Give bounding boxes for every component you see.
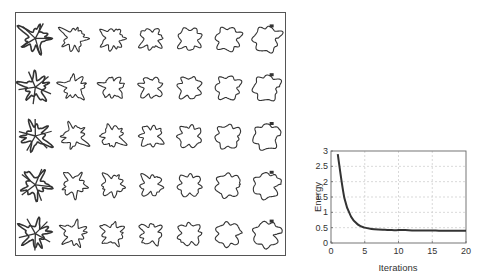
contour-shape [21,169,53,201]
x-tick-label: 15 [427,246,437,256]
contour-shape [252,73,281,101]
contour-shape [215,27,243,52]
contour-shape [57,74,87,100]
y-tick-label: 0 [323,238,328,248]
contour-shape [215,173,240,199]
contour-shape [139,224,162,246]
y-tick-label: 1.5 [315,192,328,202]
energy-chart: Energy Iterations 0510152000.511.522.53 [300,140,483,277]
contour-shape [18,217,53,250]
contour-shape [100,29,127,51]
contour-shape [100,124,127,147]
contour-shape [177,222,202,245]
contour-shape [60,121,90,149]
contour-shape [16,70,51,104]
contour-shape [17,23,52,55]
contour-shape [138,77,163,98]
contour-shape [58,27,89,52]
y-tick-label: 2 [323,177,328,187]
contour-shape [100,222,125,247]
contour-shape [97,77,124,98]
contour-shape [62,172,88,200]
contour-shape [253,220,283,250]
contour-shape [253,122,281,150]
contour-shape [215,222,242,248]
contour-shape [177,125,202,148]
contour-shape [177,174,202,197]
contour-shape [19,119,53,152]
contour-shape [253,171,281,200]
contour-shape [140,174,164,197]
y-tick-label: 2.5 [315,161,328,171]
x-tick-label: 20 [461,246,471,256]
contour-shape [215,124,241,149]
y-tick-label: 0.5 [315,223,328,233]
shape-evolution-panel [15,12,286,256]
x-tick-label: 0 [328,246,333,256]
contour-shape [59,219,87,247]
x-tick-label: 5 [362,246,367,256]
contour-shape [252,24,283,53]
x-axis-label: Iterations [378,262,417,273]
contour-shape [138,125,164,147]
contour-shape [102,173,126,198]
contour-shape [177,77,202,99]
contour-shape [178,28,203,51]
contour-shape [139,29,164,51]
y-tick-label: 3 [323,146,328,156]
energy-plot: Energy Iterations 0510152000.511.522.53 [300,140,483,277]
x-tick-label: 10 [393,246,403,256]
contour-shape [215,76,242,100]
y-tick-label: 1 [323,207,328,217]
shape-grid [16,13,287,257]
energy-line [338,154,466,231]
